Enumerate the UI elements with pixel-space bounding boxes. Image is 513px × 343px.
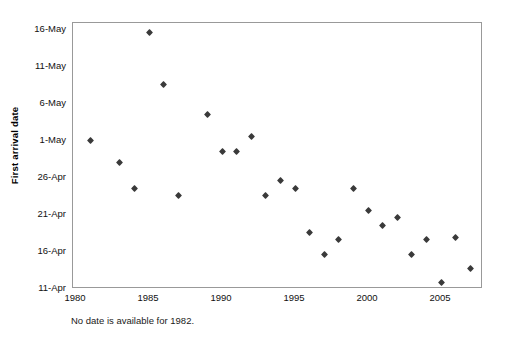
x-axis-tick-label: 2005	[410, 292, 470, 303]
data-point	[291, 185, 298, 192]
data-point	[306, 229, 313, 236]
data-point	[204, 111, 211, 118]
y-axis-tick-label: 11-May	[6, 60, 66, 71]
data-point	[145, 29, 152, 36]
x-axis-tick-label: 1980	[45, 292, 105, 303]
data-point	[131, 185, 138, 192]
data-point	[467, 264, 474, 271]
data-point	[277, 177, 284, 184]
data-point	[321, 251, 328, 258]
x-axis-tick-label: 2000	[337, 292, 397, 303]
data-point	[116, 159, 123, 166]
data-point	[423, 236, 430, 243]
y-axis-tick-label: 26-Apr	[6, 171, 66, 182]
scatter-chart-figure: First arrival date 11-Apr16-Apr21-Apr26-…	[0, 0, 513, 343]
data-point	[175, 192, 182, 199]
data-point	[408, 251, 415, 258]
data-point	[364, 207, 371, 214]
x-axis-tick-label: 1985	[118, 292, 178, 303]
plot-area	[72, 22, 482, 288]
data-point	[437, 279, 444, 286]
y-axis-tick-label: 6-May	[6, 97, 66, 108]
data-point	[350, 185, 357, 192]
data-point	[160, 81, 167, 88]
y-axis-tick-label: 21-Apr	[6, 208, 66, 219]
y-axis-tick-label: 16-Apr	[6, 245, 66, 256]
x-axis-tick-label: 1990	[191, 292, 251, 303]
data-point	[87, 136, 94, 143]
data-point	[394, 214, 401, 221]
y-axis-tick-label: 11-Apr	[6, 282, 66, 293]
data-point	[218, 148, 225, 155]
y-axis-tick-label: 1-May	[6, 134, 66, 145]
x-axis-tick-label: 1995	[264, 292, 324, 303]
data-point	[452, 234, 459, 241]
data-point	[248, 133, 255, 140]
data-point	[262, 192, 269, 199]
data-point	[233, 148, 240, 155]
chart-caption: No date is available for 1982.	[71, 315, 194, 326]
data-point	[379, 222, 386, 229]
y-axis-tick-label: 16-May	[6, 23, 66, 34]
data-point	[335, 236, 342, 243]
